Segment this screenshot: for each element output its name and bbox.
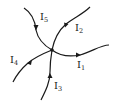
arrow-i5-icon	[34, 25, 39, 31]
branch-i4-wire	[13, 50, 52, 82]
label-i5: I5	[40, 11, 48, 24]
arrow-i4-icon	[27, 60, 32, 66]
branch-i1-wire	[52, 45, 109, 56]
label-i3: I3	[54, 80, 62, 93]
arrow-i3-icon	[48, 73, 53, 78]
branch-i5-wire	[24, 8, 52, 50]
label-i2: I2	[75, 22, 83, 35]
branch-i2-wire	[52, 7, 90, 50]
current-node-diagram: I5 I2 I1 I4 I3	[0, 0, 119, 104]
arrow-i1-icon	[76, 53, 81, 58]
label-i4: I4	[10, 54, 18, 67]
label-i1: I1	[77, 59, 85, 72]
junction-node	[50, 48, 54, 52]
